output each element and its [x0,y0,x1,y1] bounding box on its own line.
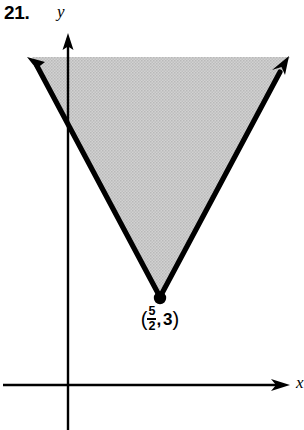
coordinate-plane-svg [0,0,304,430]
vertex-point-marker [154,292,166,304]
shaded-solution-region [32,57,290,298]
graph-figure: 21. y x (52,3) [0,0,304,430]
